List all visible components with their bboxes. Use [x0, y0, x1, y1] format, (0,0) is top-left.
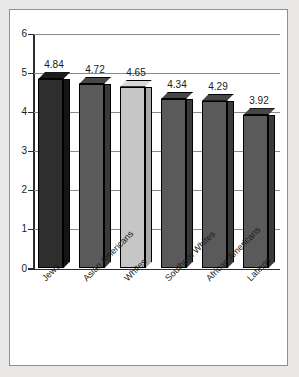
y-tick-6 [28, 34, 34, 36]
chart-figure: 0123456 4.844.724.654.344.293.92 JewsAsi… [9, 9, 288, 366]
y-axis-label-2: 2 [13, 185, 27, 195]
y-tick-label-wrap-1: 1 [10, 224, 27, 234]
bar-side-face [186, 99, 193, 269]
x-axis-line [33, 269, 280, 271]
y-tick-label-wrap-3: 3 [10, 146, 27, 156]
gridline-5 [34, 73, 280, 74]
bar-side-face [145, 87, 152, 269]
y-tick-label-wrap-5: 5 [10, 68, 27, 78]
bar-southern-whites [161, 92, 193, 269]
bar-top-face [38, 72, 70, 79]
bar-side-face [63, 79, 70, 268]
y-axis-label-6: 6 [13, 29, 27, 39]
bar-top-face [161, 92, 193, 99]
value-label-african-americans: 4.29 [199, 81, 237, 92]
y-axis-label-3: 3 [13, 146, 27, 156]
value-label-southern-whites: 4.34 [158, 79, 196, 90]
bar-top-face [79, 77, 111, 84]
plot-area: 0123456 4.844.724.654.344.293.92 JewsAsi… [10, 10, 287, 365]
y-tick-label-wrap-2: 2 [10, 185, 27, 195]
y-tick-1 [28, 229, 34, 231]
bar-side-face [104, 84, 111, 268]
gridline-6 [34, 34, 280, 35]
bar-front-face [79, 84, 104, 268]
bar-side-face [268, 115, 275, 268]
y-tick-4 [28, 112, 34, 114]
bar-side-face [227, 101, 234, 269]
value-label-asian-americans: 4.72 [76, 64, 114, 75]
y-tick-5 [28, 73, 34, 75]
y-tick-label-wrap-6: 6 [10, 29, 27, 39]
y-tick-2 [28, 190, 34, 192]
bar-front-face [161, 99, 186, 269]
bar-asian-americans [79, 77, 111, 268]
y-tick-3 [28, 151, 34, 153]
y-axis-label-0: 0 [13, 264, 27, 274]
y-tick-label-wrap-0: 0 [10, 264, 27, 274]
bar-top-face [202, 94, 234, 101]
value-label-jews: 4.84 [35, 59, 73, 70]
y-axis-label-4: 4 [13, 107, 27, 117]
bar-front-face [38, 79, 63, 268]
value-label-latinos: 3.92 [240, 95, 278, 106]
bar-top-face [120, 80, 152, 87]
y-axis-label-1: 1 [13, 224, 27, 234]
bar-jews [38, 72, 70, 268]
y-tick-label-wrap-4: 4 [10, 107, 27, 117]
bar-top-face [243, 108, 275, 115]
y-tick-0 [28, 268, 34, 270]
y-axis-label-5: 5 [13, 68, 27, 78]
value-label-whites: 4.65 [117, 67, 155, 78]
